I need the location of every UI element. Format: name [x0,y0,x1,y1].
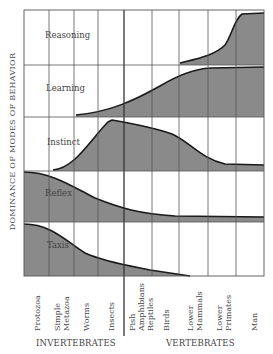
col-label-lower-mammals: LowerMammals [186,291,204,331]
col-label-birds: Birds [162,310,171,332]
col-label-insects: Insects [107,302,116,331]
row-label-reasoning: Reasoning [45,30,90,40]
group-label-vertebrates: VERTEBRATES [166,338,235,348]
col-label-worms: Worms [82,303,91,331]
row-label-learning: Learning [46,83,85,93]
col-label-man: Man [250,313,259,331]
instinct-area [53,120,264,171]
row-label-taxis: Taxis [47,240,69,250]
reasoning-area [180,13,264,65]
row-label-reflex: Reflex [45,188,72,198]
row-label-instinct: Instinct [47,137,80,147]
col-label-protozoa: Protozoa [33,295,42,331]
y-axis-label: DOMINANCE OF MODES OF BEHAVIOR [8,12,17,272]
group-label-invertebrates: INVERTEBRATES [36,338,116,348]
col-label-lower-primates: LowerPrimates [215,295,233,331]
col-label-simple-metazoa: SimpleMetazoa [53,296,71,331]
col-label-fish-amphibians-reptiles: FishAmphibiansReptiles [128,283,155,331]
